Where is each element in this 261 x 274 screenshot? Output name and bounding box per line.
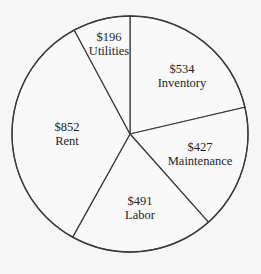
slice-category-label-utilities: Utilities [89, 44, 129, 58]
slice-value-label-labor: $491 [128, 194, 153, 208]
slice-category-label-rent: Rent [55, 134, 79, 148]
slice-value-label-rent: $852 [55, 120, 80, 134]
slice-category-label-maintenance: Maintenance [168, 154, 233, 168]
slice-value-label-maintenance: $427 [188, 140, 213, 154]
slice-value-label-inventory: $534 [170, 62, 196, 76]
pie-chart: $534 Inventory $427 Maintenance $491 Lab… [0, 0, 261, 274]
slice-category-label-inventory: Inventory [158, 76, 207, 90]
slice-category-label-labor: Labor [125, 208, 156, 222]
slice-value-label-utilities: $196 [97, 30, 122, 44]
